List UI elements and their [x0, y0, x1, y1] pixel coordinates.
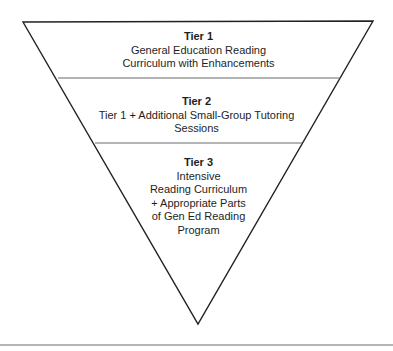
tier-1-line: Curriculum with Enhancements — [2, 57, 393, 71]
tier-3-line: Program — [2, 224, 393, 238]
tier-3-line: of Gen Ed Reading — [2, 210, 393, 224]
tier-2-title: Tier 2 — [0, 95, 393, 109]
tier-1-label: Tier 1 General Education Reading Curricu… — [2, 30, 393, 71]
tier-3-line: Reading Curriculum — [2, 183, 393, 197]
tier-1-line: General Education Reading — [2, 44, 393, 58]
tier-2-line: Sessions — [0, 122, 393, 136]
tier-3-line: + Appropriate Parts — [2, 197, 393, 211]
tier-3-title: Tier 3 — [2, 156, 393, 170]
tier-2-line: Tier 1 + Additional Small-Group Tutoring — [0, 109, 393, 123]
tier-2-label: Tier 2 Tier 1 + Additional Small-Group T… — [0, 95, 393, 136]
tier-3-line: Intensive — [2, 170, 393, 184]
tier-1-title: Tier 1 — [2, 30, 393, 44]
tier-3-label: Tier 3 Intensive Reading Curriculum + Ap… — [2, 156, 393, 237]
